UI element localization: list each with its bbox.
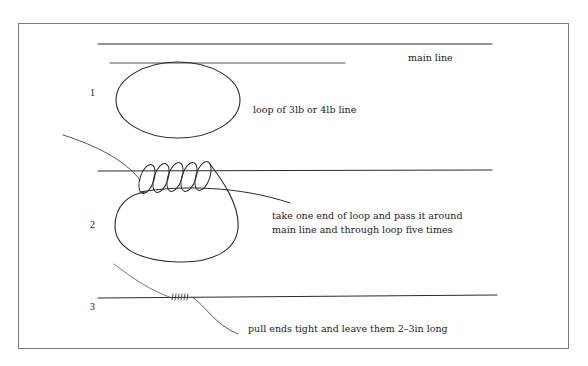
step2-instruction-line2: main line and through loop five times — [272, 223, 452, 237]
coils — [136, 160, 215, 196]
loop-label: loop of 3lb or 4lb line — [253, 103, 356, 117]
step2-instruction-line1: take one end of loop and pass it around — [272, 209, 463, 223]
step3-instruction: pull ends tight and leave them 2–3in lon… — [248, 322, 448, 336]
knot-diagram — [0, 0, 588, 366]
tag-end-right — [192, 297, 238, 334]
loop-step2 — [115, 164, 238, 262]
incoming-strand — [63, 135, 140, 180]
main-line-step3 — [98, 295, 497, 298]
loop-step1 — [116, 62, 240, 138]
main-line-label: main line — [408, 51, 453, 65]
step-number-3: 3 — [90, 301, 95, 312]
step-number-2: 2 — [90, 219, 95, 230]
step-number-1: 1 — [90, 87, 95, 98]
tag-end-left — [114, 264, 172, 298]
